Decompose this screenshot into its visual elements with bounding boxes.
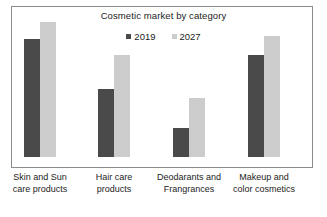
- bar-2019-group-2: [98, 89, 114, 157]
- x-axis-label-1-line-1: Skin and Sun: [1, 172, 79, 184]
- bar-2027-group-3: [189, 98, 205, 157]
- bars-layer: [11, 6, 313, 168]
- bar-2027-group-2: [114, 55, 130, 157]
- bar-2019-group-3: [173, 128, 189, 157]
- x-axis-label-3: Deodarants andFrangrances: [150, 172, 228, 195]
- x-axis-labels: Skin and Suncare productsHair careproduc…: [11, 172, 313, 214]
- x-axis-label-1: Skin and Suncare products: [1, 172, 79, 195]
- x-axis-label-3-line-1: Deodarants and: [150, 172, 228, 184]
- x-axis-label-4-line-1: Makeup and: [225, 172, 303, 184]
- x-axis-label-2-line-2: products: [75, 184, 153, 196]
- bar-chart: Cosmetic market by category 2019 2027 Sk…: [0, 0, 327, 217]
- x-axis-label-1-line-2: care products: [1, 184, 79, 196]
- x-axis-label-4: Makeup andcolor cosmetics: [225, 172, 303, 195]
- bar-2019-group-1: [24, 39, 40, 157]
- x-axis-label-4-line-2: color cosmetics: [225, 184, 303, 196]
- bar-2027-group-1: [40, 22, 56, 157]
- x-axis-label-3-line-2: Frangrances: [150, 184, 228, 196]
- x-axis-label-2-line-1: Hair care: [75, 172, 153, 184]
- bar-2027-group-4: [264, 36, 280, 157]
- bar-2019-group-4: [248, 55, 264, 157]
- x-axis-label-2: Hair careproducts: [75, 172, 153, 195]
